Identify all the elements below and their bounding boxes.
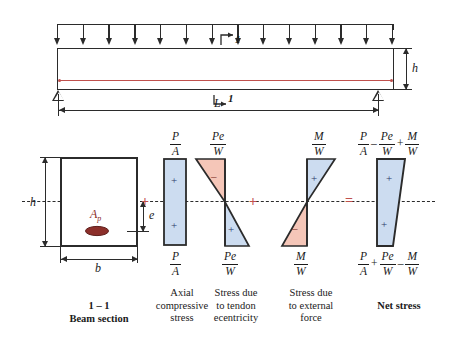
load-arrow-head [209, 38, 215, 45]
caption-mw-line1: Stress due [270, 287, 352, 300]
fraction-numerator: P [358, 251, 369, 263]
load-arrow-head [183, 38, 189, 45]
mw-sign-bottom: – [292, 222, 298, 234]
fraction-denominator: W [379, 144, 395, 158]
load-arrow-stem [186, 24, 187, 39]
axial-top-formula: P A [170, 131, 181, 157]
L-dim-line [58, 110, 379, 111]
load-arrow-stem [212, 24, 213, 39]
section-h-arrow-top [42, 157, 48, 163]
tendon-left-anchor [58, 79, 61, 82]
load-arrow-head [157, 38, 163, 45]
L-dim-arrow-left [59, 107, 65, 113]
caption-pew-line1: Stress due [196, 287, 276, 300]
formula-operator: + [371, 258, 379, 270]
load-arrow-stem [366, 24, 367, 39]
load-arrow-head [389, 38, 395, 45]
pew-sign-top: – [211, 170, 217, 182]
operator-plus-1: + [141, 194, 149, 210]
load-arrow-stem [392, 24, 393, 39]
formula-fraction: MW [405, 251, 419, 277]
formula-fraction: MW [405, 131, 419, 157]
section-b-arrow-right [132, 256, 138, 262]
fraction-numerator: M [405, 131, 419, 143]
section-b-arrow-left [61, 256, 67, 262]
load-arrow-head [312, 38, 318, 45]
load-arrow-head [260, 38, 266, 45]
section-h-line [45, 157, 46, 247]
mw-stress-shape [281, 158, 337, 248]
load-arrow-stem [134, 24, 135, 39]
mw-sign-top: + [311, 172, 317, 184]
section-width-label: b [95, 262, 101, 274]
caption-net-line1: Net stress [350, 300, 448, 313]
mw-top-formula: M W [312, 131, 326, 157]
pew-sign-bottom: + [228, 223, 234, 235]
load-arrow-stem [160, 24, 161, 39]
formula-fraction: PeW [379, 131, 395, 157]
load-arrow-head [54, 38, 60, 45]
net-sign-bottom: + [381, 218, 387, 230]
pew-top-formula: Pe W [210, 131, 226, 157]
tendon-area-label: Ap [90, 208, 101, 223]
fraction-numerator: P [358, 131, 369, 143]
load-arrow-stem [340, 24, 341, 39]
load-arrow-stem [83, 24, 84, 39]
mw-bottom-formula: M W [294, 251, 308, 277]
e-dim-arrow-bottom [140, 226, 146, 232]
L-dim-arrow-right [373, 107, 379, 113]
fraction-numerator: Pe [379, 131, 395, 143]
section-marker-top [219, 32, 245, 48]
net-sign-top: + [386, 172, 392, 184]
span-label: L [214, 97, 221, 109]
h-dim-arrow-bottom [403, 84, 409, 90]
formula-operator: – [371, 138, 378, 150]
pew-stress-shape [194, 158, 250, 248]
load-arrow-head [338, 38, 344, 45]
load-arrow-head [286, 38, 292, 45]
fraction-denominator: A [358, 264, 369, 278]
eccentricity-label: e [149, 209, 154, 221]
load-arrow-head [363, 38, 369, 45]
tendon-right-anchor [390, 79, 393, 82]
axial-sign-top: + [171, 174, 177, 186]
load-arrow-head [80, 38, 86, 45]
fraction-denominator: W [405, 144, 419, 158]
operator-plus-2: + [249, 194, 257, 210]
figure-canvas: 1 1 h L [0, 0, 451, 343]
caption-pew-line3: ecentricity [196, 312, 276, 325]
load-arrow-head [132, 38, 138, 45]
formula-fraction: PA [358, 131, 369, 157]
formula-fraction: PeW [380, 251, 396, 277]
section-b-line [60, 259, 138, 260]
formula-fraction: PA [358, 251, 369, 277]
h-dim-arrow-top [403, 48, 409, 54]
net-top-formula: PA–PeW+MW [358, 131, 419, 157]
beam-outline [57, 48, 394, 90]
caption-mw-line2: to external [270, 300, 352, 313]
load-arrow-head [106, 38, 112, 45]
pew-bottom-formula: Pe W [222, 251, 238, 277]
section-marker-bottom-label: 1 [228, 92, 234, 104]
fraction-denominator: W [380, 264, 396, 278]
load-arrow-stem [315, 24, 316, 39]
fraction-denominator: A [358, 144, 369, 158]
load-arrow-stem [108, 24, 109, 39]
tendon-line [60, 80, 391, 82]
beam-depth-label: h [412, 62, 418, 74]
section-h-arrow-bottom [42, 241, 48, 247]
load-arrow-stem [263, 24, 264, 39]
net-bottom-formula: PA+PeW–MW [358, 251, 419, 277]
fraction-denominator: W [405, 264, 419, 278]
load-arrow-stem [57, 24, 58, 39]
section-marker-top-label: 1 [235, 33, 241, 45]
formula-operator: + [396, 138, 404, 150]
operator-equals: = [345, 193, 353, 209]
fraction-numerator: Pe [380, 251, 396, 263]
caption-pew-line2: to tendon [196, 300, 276, 313]
axial-stress-shape [163, 158, 187, 246]
formula-operator: – [397, 258, 404, 270]
caption-mw-line3: force [270, 312, 352, 325]
load-arrow-stem [289, 24, 290, 39]
axial-sign-bottom: + [171, 219, 177, 231]
